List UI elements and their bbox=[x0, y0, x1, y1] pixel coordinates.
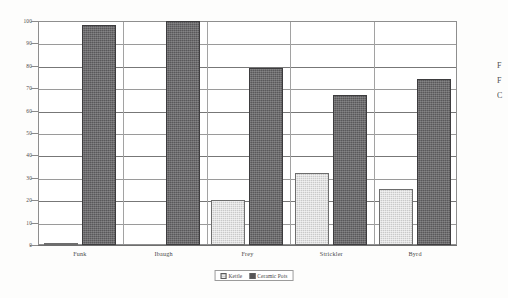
bar-ceramic bbox=[417, 79, 451, 245]
y-axis-tick-mark bbox=[31, 43, 38, 44]
x-axis-line bbox=[30, 245, 457, 246]
margin-text-line: F bbox=[497, 58, 508, 73]
bar-ceramic bbox=[333, 95, 367, 245]
bar-ceramic bbox=[82, 25, 116, 245]
y-axis-tick-mark bbox=[31, 111, 38, 112]
bars-layer bbox=[38, 21, 457, 245]
y-axis-tick-mark bbox=[31, 178, 38, 179]
y-axis-tick-mark bbox=[31, 155, 38, 156]
bar-kettle bbox=[211, 200, 245, 245]
x-axis-category-label: Byrd bbox=[409, 250, 422, 257]
bar-ceramic bbox=[166, 21, 200, 245]
y-axis-tick-mark bbox=[31, 66, 38, 67]
legend-label: Ceramic Pots bbox=[257, 273, 287, 279]
x-axis-category-label: Frey bbox=[241, 250, 253, 257]
x-axis-category-labels: FunkIbaughFreyStricklerByrd bbox=[38, 250, 457, 264]
bar-ceramic bbox=[249, 68, 283, 245]
y-axis-tick-mark bbox=[31, 245, 38, 246]
bar-group bbox=[373, 21, 457, 245]
y-axis-tick-mark bbox=[31, 21, 38, 22]
margin-text-line: F bbox=[497, 73, 508, 88]
chart-legend: KettleCeramic Pots bbox=[215, 270, 294, 281]
legend-item: Ceramic Pots bbox=[249, 273, 287, 279]
chart-page: 0102030405060708090100 FunkIbaughFreyStr… bbox=[0, 0, 508, 298]
bar-group bbox=[206, 21, 290, 245]
bar-group bbox=[289, 21, 373, 245]
legend-swatch-icon bbox=[249, 273, 255, 279]
y-axis-tick-mark bbox=[31, 200, 38, 201]
bar-group bbox=[38, 21, 122, 245]
y-axis-tick-mark bbox=[31, 133, 38, 134]
x-axis-category-label: Ibaugh bbox=[154, 250, 172, 257]
bar-kettle bbox=[379, 189, 413, 245]
legend-item: Kettle bbox=[221, 273, 243, 279]
y-axis-tick-mark bbox=[31, 88, 38, 89]
x-axis-category-label: Funk bbox=[73, 250, 87, 257]
x-axis-category-label: Strickler bbox=[320, 250, 343, 257]
margin-text-line: C bbox=[497, 88, 508, 103]
bar-kettle bbox=[295, 173, 329, 245]
bar-group bbox=[122, 21, 206, 245]
margin-text-fragment: FFC bbox=[497, 58, 508, 103]
y-axis-tick-mark bbox=[31, 223, 38, 224]
legend-swatch-icon bbox=[221, 273, 227, 279]
legend-label: Kettle bbox=[229, 273, 243, 279]
